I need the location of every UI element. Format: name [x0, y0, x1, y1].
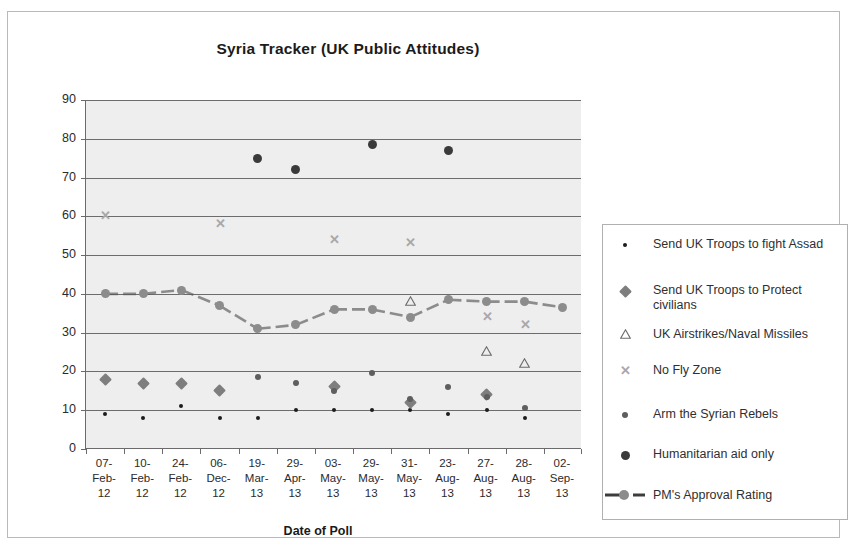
x-axis-tick — [544, 449, 545, 454]
legend-label-group: Send UK Troops to Protectcivilians — [653, 283, 848, 313]
x-axis-label-line: 28- — [504, 456, 544, 471]
legend-item[interactable]: Send UK Troops to fight Assad — [603, 235, 848, 255]
x-axis-label-line: 13 — [313, 486, 353, 501]
x-axis-label-line: 03- — [313, 456, 353, 471]
y-axis-tick — [81, 100, 86, 101]
x-axis-label-line: Dec- — [199, 471, 239, 486]
legend-item[interactable]: Arm the Syrian Rebels — [603, 405, 848, 425]
x-axis-label-line: 13 — [275, 486, 315, 501]
pm-approval-line-segment — [258, 325, 296, 329]
gridline — [86, 178, 581, 179]
x-axis-label-line: 13 — [504, 486, 544, 501]
legend-marker-icon — [603, 405, 649, 425]
legend-label: UK Airstrikes/Naval Missiles — [653, 327, 848, 342]
y-axis-tick — [81, 410, 86, 411]
x-axis-label-line: 24- — [160, 456, 200, 471]
x-axis-tick — [581, 449, 582, 454]
x-axis-tick — [200, 449, 201, 454]
gridline — [86, 255, 581, 256]
x-axis-tick — [315, 449, 316, 454]
legend-marker-icon — [603, 235, 649, 255]
gridline — [86, 371, 581, 372]
x-axis-label-line: 12 — [160, 486, 200, 501]
y-axis-label: 40 — [34, 286, 76, 300]
pm-approval-line-segment — [448, 300, 486, 302]
x-axis-label: 24-Feb-12 — [160, 456, 200, 501]
pm-approval-line-segment — [296, 309, 334, 325]
x-axis-label-line: May- — [351, 471, 391, 486]
data-point — [519, 358, 530, 368]
legend-label-group: PM's Approval Rating — [653, 488, 848, 503]
legend-marker-icon: ✕ — [603, 361, 649, 381]
x-axis-tick — [239, 449, 240, 454]
legend-item[interactable]: Humanitarian aid only — [603, 445, 848, 465]
x-axis-label-line: Feb- — [160, 471, 200, 486]
x-axis-tick — [277, 449, 278, 454]
x-axis-label-line: 13 — [427, 486, 467, 501]
legend-item[interactable]: PM's Approval Rating — [603, 485, 848, 505]
y-axis-label: 60 — [34, 208, 76, 222]
data-point — [405, 296, 416, 306]
x-axis-tick — [162, 449, 163, 454]
legend-label: Humanitarian aid only — [653, 447, 848, 462]
gridline — [86, 294, 581, 295]
legend-marker-icon — [603, 325, 649, 345]
pm-approval-line-segment — [220, 306, 258, 329]
legend-item[interactable]: Send UK Troops to Protectcivilians — [603, 281, 848, 301]
y-axis-tick — [81, 294, 86, 295]
data-point — [481, 346, 492, 356]
legend-label: Send UK Troops to Protect — [653, 283, 848, 298]
legend-label-group: UK Airstrikes/Naval Missiles — [653, 327, 848, 342]
y-axis-label: 70 — [34, 170, 76, 184]
x-axis-label-line: 12 — [122, 486, 162, 501]
y-axis-label: 80 — [34, 131, 76, 145]
y-axis-tick — [81, 139, 86, 140]
x-axis-tick — [429, 449, 430, 454]
x-axis-tick — [86, 449, 87, 454]
x-axis-label-line: 23- — [427, 456, 467, 471]
x-axis-label-line: 12 — [84, 486, 124, 501]
x-axis-label: 02-Sep-13 — [542, 456, 582, 501]
legend-label: No Fly Zone — [653, 363, 848, 378]
pm-approval-line-segment — [372, 309, 410, 317]
x-axis-label-line: 06- — [199, 456, 239, 471]
x-axis-label: 03-May-13 — [313, 456, 353, 501]
x-axis-label-line: 12 — [199, 486, 239, 501]
x-axis-label: 23-Aug-13 — [427, 456, 467, 501]
y-axis-label: 30 — [34, 325, 76, 339]
x-axis-label: 29-Apr-13 — [275, 456, 315, 501]
legend-marker-icon — [603, 485, 649, 505]
x-axis-label-line: Aug- — [427, 471, 467, 486]
gridline — [86, 333, 581, 334]
x-axis-title: Date of Poll — [198, 524, 438, 538]
x-axis-label: 28-Aug-13 — [504, 456, 544, 501]
x-axis-label: 10-Feb-12 — [122, 456, 162, 501]
chart-title: Syria Tracker (UK Public Attitudes) — [128, 40, 568, 58]
x-axis-tick — [391, 449, 392, 454]
x-axis-label: 31-May-13 — [389, 456, 429, 501]
y-axis-label: 20 — [34, 363, 76, 377]
x-axis-label-line: May- — [313, 471, 353, 486]
x-axis-label-line: 29- — [275, 456, 315, 471]
legend-item[interactable]: ✕No Fly Zone — [603, 361, 848, 381]
x-axis-label-line: 13 — [466, 486, 506, 501]
legend-label-group: No Fly Zone — [653, 363, 848, 378]
x-axis-label-line: 13 — [542, 486, 582, 501]
chart-legend: Send UK Troops to fight AssadSend UK Tro… — [602, 224, 848, 520]
legend-label-line2: civilians — [653, 298, 848, 313]
legend-label-group: Humanitarian aid only — [653, 447, 848, 462]
y-axis-label: 10 — [34, 402, 76, 416]
x-axis-label-line: Feb- — [84, 471, 124, 486]
x-axis-tick — [468, 449, 469, 454]
x-axis-label-line: Apr- — [275, 471, 315, 486]
legend-label: Send UK Troops to fight Assad — [653, 237, 848, 252]
x-axis-tick — [124, 449, 125, 454]
legend-item[interactable]: UK Airstrikes/Naval Missiles — [603, 325, 848, 345]
legend-marker-icon — [603, 281, 649, 301]
y-axis-label: 50 — [34, 247, 76, 261]
plot-area: ✕✕✕✕✕✕ — [85, 100, 581, 449]
gridline — [86, 139, 581, 140]
x-axis-label: 07-Feb-12 — [84, 456, 124, 501]
x-axis-label-line: 02- — [542, 456, 582, 471]
x-axis-label: 29-May-13 — [351, 456, 391, 501]
